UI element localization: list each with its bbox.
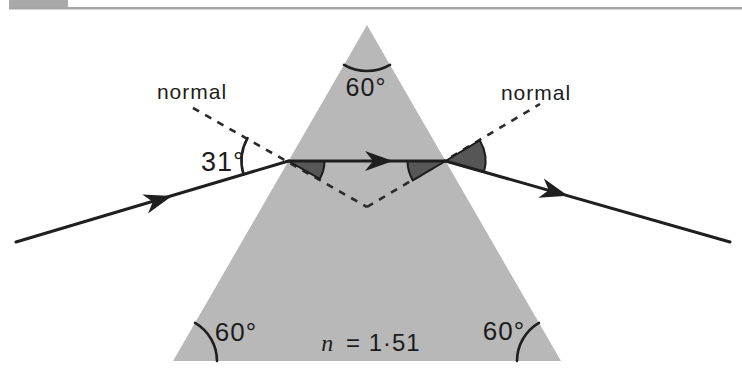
prism-refraction-diagram: normal normal 31° 60° 60° 60° n = 1·51 (0, 0, 742, 376)
incident-ray (16, 161, 289, 242)
page-header-rule (9, 7, 742, 10)
base-left-angle-label: 60° (215, 317, 257, 347)
scanned-page: normal normal 31° 60° 60° 60° n = 1·51 (0, 0, 742, 376)
refracted-ray-arrow (538, 179, 570, 206)
incidence-angle-label: 31° (201, 147, 245, 177)
normal-label-right: normal (501, 81, 571, 104)
refracted-ray (446, 161, 731, 242)
refractive-index-value: = 1·51 (346, 329, 421, 356)
normal-label-left: normal (157, 80, 227, 103)
refractive-index-label: n = 1·51 (321, 329, 420, 356)
apex-angle-label: 60° (346, 73, 387, 101)
incident-ray-arrow (142, 186, 175, 213)
refractive-index-symbol: n (321, 330, 334, 356)
base-right-angle-label: 60° (483, 316, 525, 346)
